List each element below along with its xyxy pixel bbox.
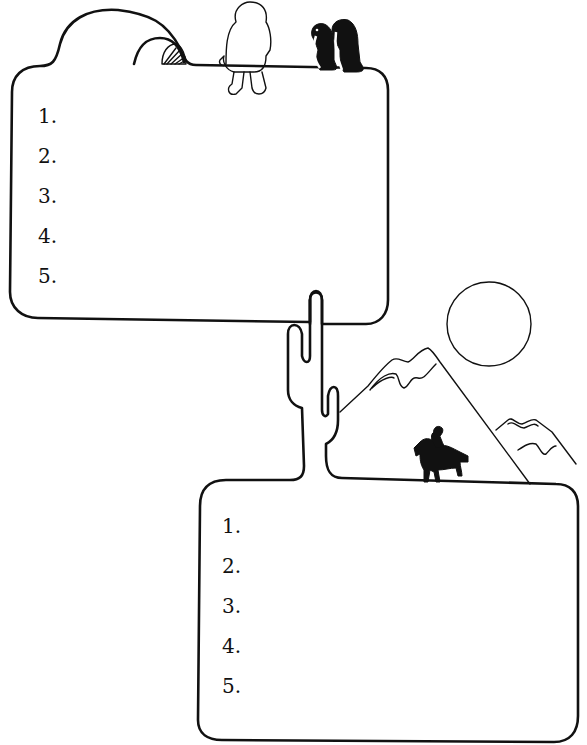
bottom-panel-frame <box>198 291 578 742</box>
list-item-number: 5. <box>38 256 57 296</box>
list-item-number: 1. <box>38 96 57 136</box>
bottom-answer-list: 1. 2. 3. 4. 5. <box>222 506 241 706</box>
list-item-number: 4. <box>222 626 241 666</box>
mountain-icon <box>496 419 576 464</box>
igloo-icon <box>134 38 186 64</box>
worksheet-artwork <box>0 0 587 745</box>
penguin-icon <box>332 19 363 72</box>
list-item-number: 3. <box>38 176 57 216</box>
list-item-number: 4. <box>38 216 57 256</box>
sun-icon <box>447 282 531 366</box>
list-item-number: 3. <box>222 586 241 626</box>
list-item-number: 2. <box>222 546 241 586</box>
horse-rider-icon <box>414 426 468 482</box>
list-item-number: 2. <box>38 136 57 176</box>
top-answer-list: 1. 2. 3. 4. 5. <box>38 96 57 296</box>
list-item-number: 1. <box>222 506 241 546</box>
eskimo-child-icon <box>220 2 271 94</box>
list-item-number: 5. <box>222 666 241 706</box>
